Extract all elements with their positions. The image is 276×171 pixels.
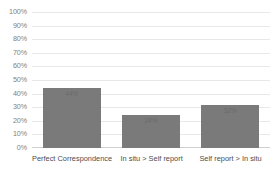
x-axis: Perfect Correspondence In situ > Self re… [32, 152, 270, 171]
y-axis-tick: 80% [13, 36, 27, 43]
y-axis-tick: 10% [13, 131, 27, 138]
bar-chart: 100% 90% 80% 70% 60% 50% 40% 30% 20% 10%… [0, 0, 276, 171]
bar[interactable]: 44% [43, 88, 101, 148]
bar-slot: 24% [111, 12, 190, 148]
y-axis-tick: 40% [13, 90, 27, 97]
y-axis: 100% 90% 80% 70% 60% 50% 40% 30% 20% 10%… [0, 0, 30, 171]
bar-slot: 44% [32, 12, 111, 148]
y-axis-tick: 70% [13, 49, 27, 56]
y-axis-tick: 30% [13, 104, 27, 111]
y-axis-tick: 50% [13, 76, 27, 83]
bar[interactable]: 24% [122, 115, 180, 148]
bars-layer: 44% 24% 32% [32, 12, 270, 148]
x-axis-category-label: In situ > Self report [112, 152, 191, 171]
bar-value-label: 24% [122, 118, 180, 125]
bar-value-label: 32% [201, 108, 259, 115]
bar[interactable]: 32% [201, 105, 259, 149]
x-axis-category-label: Perfect Correspondence [32, 152, 112, 171]
y-axis-tick: 60% [13, 63, 27, 70]
y-axis-tick: 100% [9, 8, 27, 15]
bar-slot: 32% [191, 12, 270, 148]
plot-area: 44% 24% 32% [32, 12, 270, 148]
bar-value-label: 44% [43, 91, 101, 98]
y-axis-tick: 0% [17, 144, 27, 151]
x-axis-category-label: Self report > In situ [191, 152, 270, 171]
y-axis-tick: 20% [13, 117, 27, 124]
y-axis-tick: 90% [13, 22, 27, 29]
